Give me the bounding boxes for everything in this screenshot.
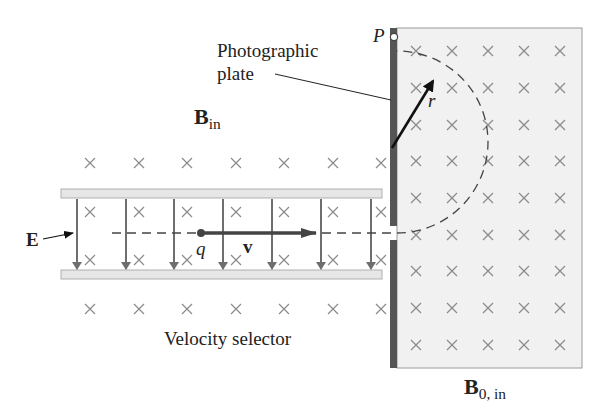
- b0-in-label: B0, in: [464, 374, 506, 403]
- b-in-cross-marks: [85, 158, 386, 314]
- cross-mark-icon: [231, 304, 241, 314]
- cross-mark-icon: [85, 207, 95, 217]
- cross-mark-icon: [328, 158, 338, 168]
- cross-mark-icon: [182, 255, 192, 265]
- cross-mark-icon: [376, 255, 386, 265]
- magnetic-field-region-b0: [397, 28, 582, 368]
- photographic-plate-upper: [390, 28, 397, 226]
- cross-mark-icon: [328, 255, 338, 265]
- cross-mark-icon: [279, 304, 289, 314]
- b-in-label: Bin: [194, 104, 221, 133]
- point-p-label: P: [373, 25, 385, 47]
- b-in-subscript: in: [209, 115, 221, 132]
- charge-q: [197, 229, 205, 237]
- cross-mark-icon: [279, 158, 289, 168]
- cross-mark-icon: [85, 255, 95, 265]
- point-p-marker: [390, 33, 397, 40]
- cross-mark-icon: [279, 255, 289, 265]
- e-field-pointer: [43, 233, 73, 239]
- b-in-symbol: B: [194, 104, 209, 129]
- cross-mark-icon: [231, 158, 241, 168]
- b0-subscript: 0, in: [479, 385, 506, 402]
- capacitor-top-plate: [61, 189, 382, 198]
- b0-symbol: B: [464, 374, 479, 399]
- cross-mark-icon: [376, 304, 386, 314]
- field-e-label: E: [26, 229, 39, 251]
- cross-mark-icon: [182, 304, 192, 314]
- cross-mark-icon: [182, 158, 192, 168]
- cross-mark-icon: [231, 255, 241, 265]
- charge-q-label: q: [196, 238, 206, 260]
- cross-mark-icon: [85, 158, 95, 168]
- radius-r-label: r: [428, 90, 435, 112]
- capacitor-bottom-plate: [61, 270, 382, 279]
- cross-mark-icon: [328, 207, 338, 217]
- cross-mark-icon: [231, 207, 241, 217]
- cross-mark-icon: [376, 207, 386, 217]
- cross-mark-icon: [182, 207, 192, 217]
- photographic-plate-label-line1: Photographic: [217, 39, 318, 62]
- cross-mark-icon: [279, 207, 289, 217]
- cross-mark-icon: [134, 207, 144, 217]
- velocity-v-label: v: [243, 236, 253, 258]
- cross-mark-icon: [134, 158, 144, 168]
- cross-mark-icon: [134, 255, 144, 265]
- cross-mark-icon: [376, 158, 386, 168]
- photographic-plate-lower: [390, 240, 397, 368]
- photographic-plate-label-line2: plate: [217, 62, 318, 85]
- photographic-plate-label: Photographic plate: [217, 39, 318, 85]
- cross-mark-icon: [134, 304, 144, 314]
- cross-mark-icon: [85, 304, 95, 314]
- cross-mark-icon: [328, 304, 338, 314]
- velocity-selector-label: Velocity selector: [164, 328, 291, 350]
